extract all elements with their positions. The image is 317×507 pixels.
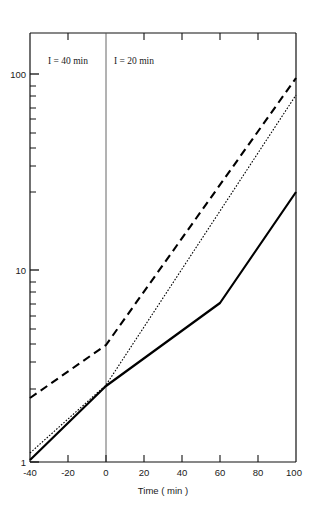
x-axis-top-ticks [68,33,258,40]
x-axis-title: Time ( min ) [138,485,188,496]
x-tick-label-0: 0 [103,467,108,478]
region-label-left: I = 40 min [48,56,88,66]
plot-frame [30,33,296,462]
semilog-chart: 100 10 1 -40 -20 0 20 40 60 80 100 Time … [0,0,317,507]
y-axis-major-ticks [30,74,39,462]
y-axis-minor-ticks [30,86,36,389]
solid-curve [30,192,296,460]
x-tick-label-minus40: -40 [23,467,37,478]
region-label-right: I = 20 min [114,56,154,66]
x-tick-label-40: 40 [177,467,188,478]
x-tick-label-minus20: -20 [61,467,75,478]
y-tick-label-100: 100 [10,69,26,80]
x-tick-label-80: 80 [253,467,264,478]
x-tick-label-20: 20 [139,467,150,478]
chart-page: 100 10 1 -40 -20 0 20 40 60 80 100 Time … [0,0,317,507]
x-tick-label-100: 100 [286,467,302,478]
dashed-curve [30,78,296,398]
x-tick-label-60: 60 [215,467,226,478]
dotted-curve [30,95,296,453]
x-axis-ticks [68,455,258,462]
y-tick-label-10: 10 [15,265,26,276]
